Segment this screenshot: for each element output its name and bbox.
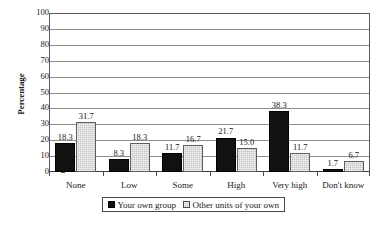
x-tick-label: Don't know xyxy=(317,179,371,191)
legend-entry: Other units of your own xyxy=(183,200,279,210)
y-tick-label: 100 xyxy=(23,8,49,17)
y-tick-label: 70 xyxy=(23,56,49,65)
x-tick-mark xyxy=(369,172,370,176)
y-tick-label: 0 xyxy=(23,167,49,176)
x-tick-mark xyxy=(49,172,50,176)
y-tick-label: 20 xyxy=(23,135,49,144)
y-axis-ticks: 1009080706050403020100 xyxy=(17,0,49,227)
gridline xyxy=(50,77,369,78)
legend-swatch-icon xyxy=(108,201,115,208)
y-tick-label: 40 xyxy=(23,103,49,112)
y-tick-label: 30 xyxy=(23,119,49,128)
x-tick-label: Low xyxy=(103,179,157,191)
legend-label: Your own group xyxy=(118,200,177,210)
gridline xyxy=(50,140,369,141)
gridline xyxy=(50,156,369,157)
gridline xyxy=(50,108,369,109)
gridline xyxy=(50,29,369,30)
chart-legend: Your own groupOther units of your own xyxy=(102,197,285,212)
x-axis-labels: NoneLowSomeHighVery highDon't know xyxy=(49,179,370,193)
y-tick-label: 90 xyxy=(23,24,49,33)
y-tick-label: 10 xyxy=(23,151,49,160)
gridline xyxy=(50,13,369,14)
x-tick-mark xyxy=(263,172,264,176)
x-tick-label: High xyxy=(210,179,264,191)
y-tick-label: 60 xyxy=(23,72,49,81)
gridline xyxy=(50,93,369,94)
y-tick-label: 80 xyxy=(23,40,49,49)
gridline xyxy=(50,45,369,46)
x-tick-mark xyxy=(156,172,157,176)
plot-area xyxy=(49,13,370,172)
legend-label: Other units of your own xyxy=(193,200,280,210)
x-tick-label: None xyxy=(49,179,103,191)
legend-swatch-icon xyxy=(183,201,190,208)
bar-chart: Percentage 1009080706050403020100 18.331… xyxy=(0,0,391,227)
x-tick-mark xyxy=(103,172,104,176)
x-axis-ticks xyxy=(49,172,370,177)
x-tick-label: Very high xyxy=(263,179,317,191)
x-tick-mark xyxy=(210,172,211,176)
x-tick-mark xyxy=(317,172,318,176)
y-tick-label: 50 xyxy=(23,88,49,97)
gridline xyxy=(50,61,369,62)
x-tick-label: Some xyxy=(156,179,210,191)
gridline xyxy=(50,124,369,125)
legend-entry: Your own group xyxy=(108,200,176,210)
